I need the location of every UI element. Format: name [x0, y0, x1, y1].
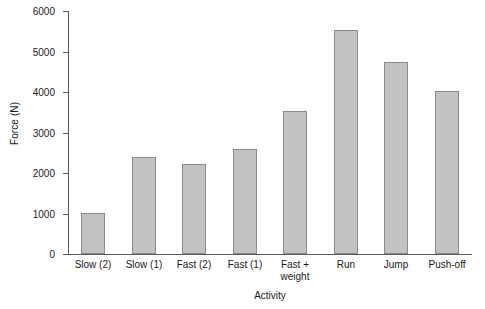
- x-axis-tick-labels: Slow (2)Slow (1)Fast (2)Fast (1)Fast +we…: [68, 259, 472, 293]
- bars-layer: [68, 11, 472, 255]
- bar-2: [132, 157, 156, 254]
- bar-3: [182, 164, 206, 254]
- bar-chart: Force (N) 0100020003000400050006000 Slow…: [0, 0, 485, 309]
- x-axis-title: Activity: [68, 290, 472, 301]
- bar-4: [233, 149, 257, 254]
- y-axis-tick-label: 2000: [33, 168, 55, 179]
- y-axis-tick-label: 1000: [33, 208, 55, 219]
- x-axis-label-line: Push-off: [412, 259, 482, 271]
- bar-8: [435, 91, 459, 254]
- plot-area: 0100020003000400050006000: [68, 11, 472, 255]
- y-axis-tick-label: 3000: [33, 127, 55, 138]
- bar-7: [384, 62, 408, 254]
- y-axis-tick-label: 4000: [33, 87, 55, 98]
- y-axis-tick-label: 6000: [33, 6, 55, 17]
- y-axis-tick-label: 5000: [33, 46, 55, 57]
- x-axis-label: Push-off: [412, 259, 482, 271]
- y-axis-title: Force (N): [9, 84, 20, 164]
- bar-6: [334, 30, 358, 254]
- bar-5: [283, 111, 307, 254]
- x-axis-label-line: weight: [260, 271, 330, 283]
- bar-1: [81, 213, 105, 254]
- y-axis-tick-label: 0: [49, 249, 55, 260]
